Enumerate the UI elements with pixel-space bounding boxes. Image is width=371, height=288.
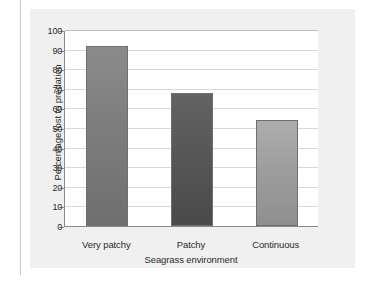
y-axis-tick-label: 30 bbox=[32, 164, 62, 173]
y-axis-tick-label: 70 bbox=[32, 86, 62, 95]
page-margin-rule bbox=[20, 0, 21, 275]
y-axis-tick-label: 20 bbox=[32, 184, 62, 193]
bar-chart: Percentage lost to predation Seagrass en… bbox=[30, 9, 355, 268]
bar bbox=[256, 120, 298, 226]
x-axis-category-label: Continuous bbox=[216, 239, 336, 250]
y-axis-tick-label: 100 bbox=[32, 27, 62, 36]
y-axis-tick-label: 80 bbox=[32, 66, 62, 75]
plot-area bbox=[64, 31, 318, 227]
gridline bbox=[65, 30, 318, 31]
bar bbox=[171, 93, 213, 226]
y-axis-tick-label: 0 bbox=[32, 223, 62, 232]
y-axis-tick-label: 90 bbox=[32, 47, 62, 56]
bar bbox=[86, 46, 128, 226]
x-axis-title: Seagrass environment bbox=[64, 254, 318, 265]
figure-panel: Percentage lost to predation Seagrass en… bbox=[30, 9, 355, 268]
y-axis-tick-label: 40 bbox=[32, 145, 62, 154]
y-axis-tick-label: 10 bbox=[32, 203, 62, 212]
y-axis-tick-label: 60 bbox=[32, 105, 62, 114]
y-axis-tick-label: 50 bbox=[32, 125, 62, 134]
